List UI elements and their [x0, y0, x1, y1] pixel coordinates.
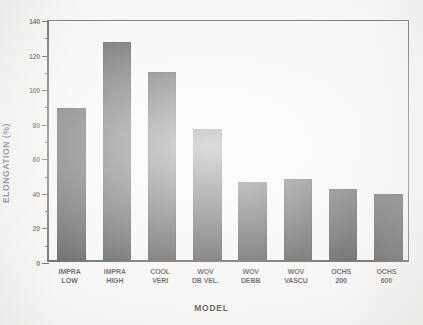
y-axis-tick [42, 90, 49, 91]
y-axis-tick-label: 120 [29, 52, 40, 59]
x-axis-tick-label: IMPRA HIGH [92, 268, 137, 285]
y-axis-tick [42, 21, 49, 22]
x-axis-tick-label: WOV VASCU [273, 268, 318, 285]
y-axis-tick [42, 125, 49, 126]
y-axis-tick [42, 159, 49, 160]
x-axis-tick-label: WOV DEBB [228, 268, 273, 285]
bar [284, 179, 313, 260]
y-axis-tick-label: 100 [29, 87, 40, 94]
y-axis-tick-label: 0 [36, 260, 40, 267]
x-axis-tick-label: IMPRA LOW [47, 268, 92, 285]
y-axis-tick [42, 194, 49, 195]
x-axis-tick-label: WOV DB VEL. [183, 268, 228, 285]
y-axis-tick-label: 40 [33, 190, 40, 197]
x-axis-title: MODEL [0, 303, 423, 313]
bar [57, 108, 86, 260]
y-axis-tick-label: 140 [29, 18, 40, 25]
y-axis-tick-label: 60 [33, 156, 40, 163]
plot-area: 020406080100120140 [47, 20, 409, 262]
bar [193, 129, 222, 260]
y-axis-tick [42, 56, 49, 57]
y-axis-tick-label: 80 [33, 121, 40, 128]
bar [329, 189, 358, 260]
y-axis-tick-label: 20 [33, 225, 40, 232]
bar-series [49, 21, 408, 260]
chart-figure: ELONGATION (%) 020406080100120140 IMPRA … [0, 0, 423, 325]
bar [148, 72, 177, 260]
y-axis-tick [42, 263, 49, 264]
bar [103, 42, 132, 260]
bar [238, 182, 267, 260]
x-axis-tick-label: OCHS 200 [319, 268, 364, 285]
bar [374, 194, 403, 260]
x-axis-tick-label: OCHS 600 [364, 268, 409, 285]
y-axis-tick [42, 228, 49, 229]
x-axis-tick-label: COOL VERI [138, 268, 183, 285]
y-axis-title: ELONGATION (%) [1, 122, 11, 202]
